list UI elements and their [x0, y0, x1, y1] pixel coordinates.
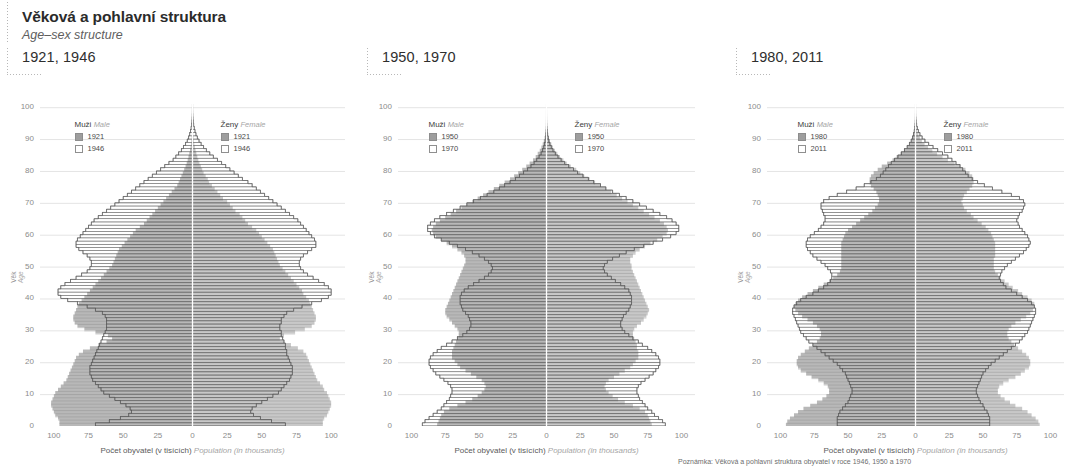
legend-label-outline: 1946 [234, 144, 251, 153]
y-tick-label: 20 [25, 357, 34, 366]
y-axis-title: VěkAge [10, 271, 25, 283]
legend-label-filled: 1980 [811, 132, 828, 141]
x-tick-label: 25 [501, 431, 525, 440]
x-tick-label: 75 [1005, 431, 1029, 440]
x-tick-label: 0 [181, 431, 205, 440]
y-tick-label: 10 [25, 389, 34, 398]
x-tick-label: 100 [319, 431, 343, 440]
y-tick-label: 30 [25, 325, 34, 334]
y-tick-label: 0 [388, 421, 392, 430]
y-tick-label: 50 [383, 262, 392, 271]
y-tick-label: 10 [752, 389, 761, 398]
y-tick-label: 30 [383, 325, 392, 334]
pyramid-chart-0: 0102030405060708090100VěkAge100755025025… [40, 104, 345, 426]
legend-label-filled: 1950 [442, 132, 459, 141]
legend-swatch-filled [221, 133, 229, 141]
legend-swatch-filled [429, 133, 437, 141]
legend-label-outline: 2011 [811, 144, 827, 153]
legend-swatch-filled [75, 133, 83, 141]
legend-male: Muži Male19211946 [75, 120, 110, 157]
panel-title-0: 1921, 1946 [22, 49, 96, 65]
x-tick-label: 75 [433, 431, 457, 440]
panel-title-hline-2 [736, 74, 770, 75]
y-tick-label: 60 [25, 230, 34, 239]
x-tick-label: 100 [1039, 431, 1063, 440]
x-tick-label: 25 [568, 431, 592, 440]
x-tick-label: 75 [284, 431, 308, 440]
legend-heading-female: Ženy Female [944, 120, 989, 129]
x-tick-label: 100 [769, 431, 793, 440]
legend-label-outline: 1970 [588, 144, 605, 153]
y-tick-label: 20 [752, 357, 761, 366]
legend-label-filled: 1980 [957, 132, 974, 141]
y-tick-label: 60 [383, 230, 392, 239]
panel-title-vline-0 [7, 48, 8, 74]
x-tick-label: 100 [400, 431, 424, 440]
y-tick-label: 70 [25, 198, 34, 207]
legend-item-filled-male[interactable]: 1921 [75, 132, 110, 141]
legend-item-outline-female[interactable]: 1946 [221, 144, 266, 153]
pyramid-chart-2: 0102030405060708090100VěkAge100755025025… [767, 104, 1064, 426]
x-tick-label: 50 [602, 431, 626, 440]
y-tick-label: 100 [379, 102, 392, 111]
legend-item-outline-female[interactable]: 1970 [575, 144, 620, 153]
y-tick-label: 70 [383, 198, 392, 207]
legend-item-outline-male[interactable]: 1946 [75, 144, 110, 153]
x-tick-label: 0 [904, 431, 928, 440]
x-tick-label: 50 [467, 431, 491, 440]
legend-male: Muži Male19802011 [798, 120, 833, 157]
legend-label-outline: 1946 [88, 144, 105, 153]
x-axis-title: Počet obyvatel (v tisících) Population (… [40, 446, 345, 455]
x-tick-label: 75 [636, 431, 660, 440]
legend-item-outline-male[interactable]: 2011 [798, 144, 833, 153]
y-tick-label: 90 [25, 134, 34, 143]
x-tick-label: 50 [250, 431, 274, 440]
legend-item-filled-female[interactable]: 1921 [221, 132, 266, 141]
legend-item-outline-male[interactable]: 1970 [429, 144, 464, 153]
footnote: Poznámka: Věková a pohlavní struktura ob… [678, 458, 911, 465]
y-tick-label: 100 [21, 102, 34, 111]
y-tick-label: 80 [25, 166, 34, 175]
panel-title-hline-1 [367, 74, 401, 75]
x-tick-label: 50 [836, 431, 860, 440]
legend-swatch-outline [798, 145, 806, 153]
x-tick-label: 25 [870, 431, 894, 440]
x-tick-label: 25 [215, 431, 239, 440]
panel-title-vline-2 [736, 48, 737, 74]
x-tick-label: 0 [535, 431, 559, 440]
x-axis-title: Počet obyvatel (v tisících) Population (… [767, 446, 1064, 455]
x-tick-label: 25 [937, 431, 961, 440]
y-tick-label: 10 [383, 389, 392, 398]
y-tick-label: 0 [30, 421, 34, 430]
legend-swatch-filled [798, 133, 806, 141]
y-tick-label: 50 [25, 262, 34, 271]
y-tick-label: 20 [383, 357, 392, 366]
legend-female: Ženy Female19211946 [221, 120, 266, 157]
legend-item-filled-female[interactable]: 1980 [944, 132, 989, 141]
x-tick-label: 50 [971, 431, 995, 440]
legend-swatch-outline [75, 145, 83, 153]
y-tick-label: 40 [383, 293, 392, 302]
panel-1950-1970: 1950, 1970 0102030405060708090100VěkAge1… [360, 0, 712, 469]
y-tick-label: 90 [752, 134, 761, 143]
y-tick-label: 100 [748, 102, 761, 111]
panel-1980-2011: 1980, 2011 0102030405060708090100VěkAge1… [729, 0, 1071, 469]
legend-label-filled: 1921 [88, 132, 105, 141]
legend-label-outline: 1970 [442, 144, 459, 153]
legend-male: Muži Male19501970 [429, 120, 464, 157]
x-tick-label: 25 [146, 431, 170, 440]
y-tick-label: 30 [752, 325, 761, 334]
y-tick-label: 0 [757, 421, 761, 430]
y-tick-label: 50 [752, 262, 761, 271]
legend-item-filled-female[interactable]: 1950 [575, 132, 620, 141]
panel-1921-1946: 1921, 1946 0102030405060708090100VěkAge1… [0, 0, 360, 469]
legend-swatch-outline [944, 145, 952, 153]
legend-item-filled-male[interactable]: 1950 [429, 132, 464, 141]
legend-swatch-filled [944, 133, 952, 141]
legend-item-filled-male[interactable]: 1980 [798, 132, 833, 141]
x-tick-label: 50 [111, 431, 135, 440]
legend-item-outline-female[interactable]: 2011 [944, 144, 989, 153]
panel-title-hline-0 [7, 74, 41, 75]
legend-swatch-outline [429, 145, 437, 153]
y-axis-title: VěkAge [368, 271, 383, 283]
